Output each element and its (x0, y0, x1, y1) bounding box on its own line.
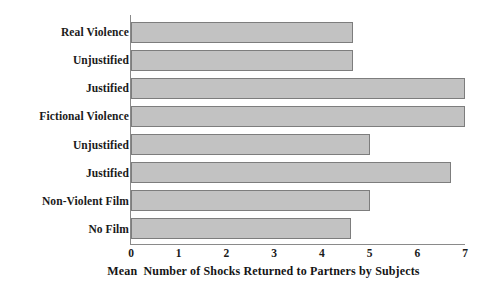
bar (131, 22, 353, 43)
bar-fill (131, 134, 370, 155)
category-label: Fictional Violence (39, 110, 129, 122)
bar (131, 162, 451, 183)
x-tick-label: 4 (302, 247, 342, 259)
plot-area: Real ViolenceUnjustifiedJustifiedFiction… (0, 0, 493, 287)
x-axis-line (130, 244, 465, 245)
bar (131, 50, 353, 71)
x-tick-label: 5 (350, 247, 390, 259)
bar-fill (131, 190, 370, 211)
category-label: Non-Violent Film (42, 195, 129, 207)
bar-fill (131, 50, 353, 71)
bar-fill (131, 162, 451, 183)
category-label: No Film (88, 223, 129, 235)
x-tick-label: 3 (254, 247, 294, 259)
x-tick-label: 2 (206, 247, 246, 259)
x-tick-label: 0 (111, 247, 151, 259)
category-label: Unjustified (73, 139, 129, 151)
x-tick-label: 1 (159, 247, 199, 259)
x-axis-title: Mean Number of Shocks Returned to Partne… (0, 264, 493, 279)
category-label: Real Violence (61, 26, 129, 38)
bar-fill (131, 22, 353, 43)
bar (131, 78, 465, 99)
bar (131, 134, 370, 155)
bar-fill (131, 218, 351, 239)
bar (131, 106, 465, 127)
x-tick-label: 6 (397, 247, 437, 259)
bar-chart-figure: Real ViolenceUnjustifiedJustifiedFiction… (0, 0, 493, 287)
bar (131, 190, 370, 211)
bar-fill (131, 78, 465, 99)
category-label: Justified (86, 167, 129, 179)
category-label: Unjustified (73, 54, 129, 66)
bar (131, 218, 351, 239)
x-tick-label: 7 (445, 247, 485, 259)
bar-fill (131, 106, 465, 127)
category-label: Justified (86, 82, 129, 94)
